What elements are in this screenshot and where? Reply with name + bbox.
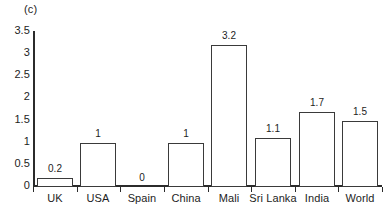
bar-value-label: 1 bbox=[78, 129, 118, 139]
bar-value-label: 0 bbox=[122, 173, 162, 183]
y-axis-tick-label: 3 bbox=[4, 47, 30, 58]
bar-chart-plot: 3.532.521.510.50 0.21013.21.11.71.5 UKUS… bbox=[0, 0, 386, 213]
bar bbox=[342, 121, 378, 187]
y-axis-tick-label: 0.5 bbox=[4, 158, 30, 169]
bar-value-label: 0.2 bbox=[35, 164, 75, 174]
figure: (c) 3.532.521.510.50 0.21013.21.11.71.5 … bbox=[0, 0, 386, 213]
bar-value-label: 1.7 bbox=[297, 98, 337, 108]
bar bbox=[168, 143, 204, 187]
y-axis-tick-label: 3.5 bbox=[4, 25, 30, 36]
bar bbox=[299, 112, 335, 187]
bar bbox=[37, 178, 73, 187]
bar-value-label: 1.5 bbox=[340, 107, 380, 117]
bar-value-label: 1 bbox=[166, 129, 206, 139]
bar bbox=[211, 45, 247, 187]
y-axis-tick-labels: 3.532.521.510.50 bbox=[0, 0, 30, 213]
x-axis-category-label: World bbox=[330, 192, 386, 205]
bar-value-label: 1.1 bbox=[253, 124, 293, 134]
y-axis-tick-label: 2 bbox=[4, 91, 30, 102]
bar bbox=[80, 143, 116, 187]
y-axis-tick-label: 0 bbox=[4, 180, 30, 191]
y-axis-tick-label: 2.5 bbox=[4, 69, 30, 80]
bar bbox=[255, 138, 291, 187]
y-axis-tick-label: 1 bbox=[4, 136, 30, 147]
y-axis-tick-label: 1.5 bbox=[4, 114, 30, 125]
bar-value-label: 3.2 bbox=[209, 31, 249, 41]
